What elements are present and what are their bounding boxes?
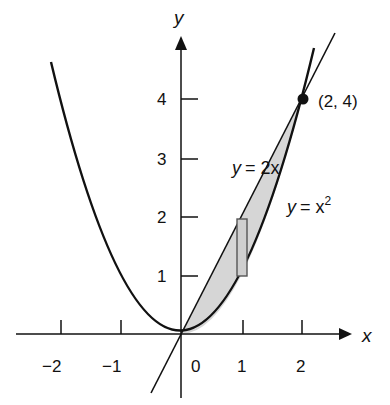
intersection-point <box>298 94 309 105</box>
y-tick-label: 1 <box>157 267 166 286</box>
region-between-curves-diagram: y x −2 −1 0 1 2 4 3 2 1 (2, 4) y= 2x y= … <box>0 0 390 405</box>
x-axis-arrow-icon <box>339 328 352 340</box>
parab-eq-mid: = x <box>300 197 325 217</box>
x-axis-label: x <box>361 325 373 346</box>
y-tick-label: 3 <box>157 150 166 169</box>
representative-strip <box>237 219 247 276</box>
parabola-curve <box>51 48 314 331</box>
x-tick-label: 0 <box>191 357 200 376</box>
line-eq-lhs: y <box>230 158 242 178</box>
y-tick-label: 4 <box>157 90 166 109</box>
point-label: (2, 4) <box>318 92 358 111</box>
y-axis-label: y <box>172 7 185 28</box>
parab-eq-lhs: y <box>285 197 297 217</box>
line-equation-label: y= 2x <box>230 158 280 178</box>
x-tick-label: −2 <box>42 357 61 376</box>
y-ticks <box>181 99 198 276</box>
y-tick-label: 2 <box>157 208 166 227</box>
line-eq-rhs: = 2x <box>245 158 280 178</box>
parab-eq-exp: 2 <box>325 194 332 208</box>
x-tick-label: 1 <box>237 357 246 376</box>
parabola-equation-label: y= x2 <box>285 194 332 217</box>
x-tick-label: 2 <box>296 357 305 376</box>
y-axis-arrow-icon <box>175 36 187 50</box>
x-tick-label: −1 <box>102 357 121 376</box>
